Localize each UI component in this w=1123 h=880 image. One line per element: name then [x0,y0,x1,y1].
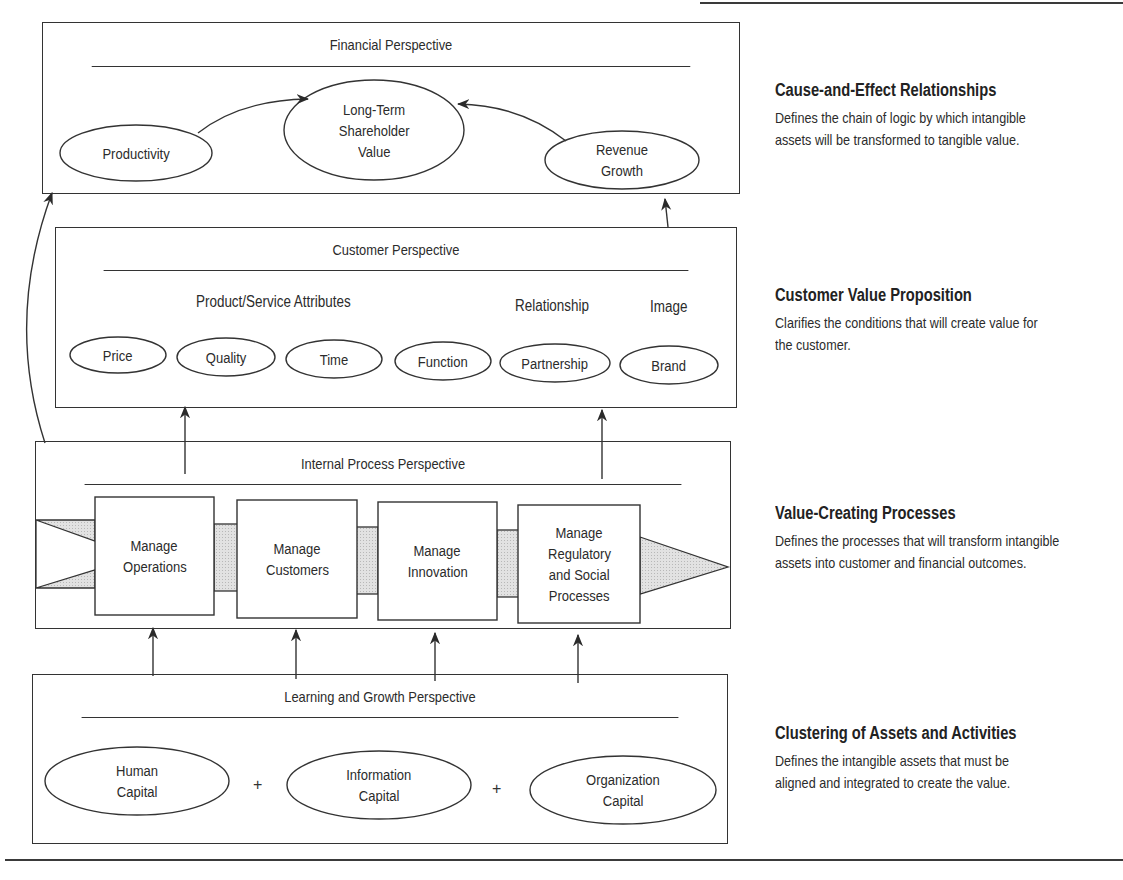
node-productivity: Productivity [60,125,212,181]
node-long-term-shareholder-value: Long-Term Shareholder Value [284,80,464,180]
plus-operator-2: + [492,780,501,798]
group-label-relationship: Relationship [515,297,589,315]
description-text: Defines the processes that will transfor… [775,530,1111,574]
description-text: Defines the intangible assets that must … [775,750,1111,794]
financial-perspective-title: Financial Perspective [92,23,691,67]
process-manage-operations: Manage Operations [95,497,214,615]
node-quality: Quality [177,338,275,376]
node-partnership: Partnership [500,344,610,382]
node-organization-capital: Organization Capital [530,756,716,824]
internal-process-perspective-title: Internal Process Perspective [85,442,682,485]
description-cause-effect: Cause-and-Effect Relationships Defines t… [775,80,1123,151]
node-time: Time [286,340,382,378]
plus-operator-1: + [253,776,262,794]
node-price: Price [70,337,166,373]
process-manage-regulatory-social: Manage Regulatory and Social Processes [518,505,640,623]
group-label-product-service-attributes: Product/Service Attributes [196,293,351,311]
description-title: Customer Value Proposition [775,285,1077,306]
learning-growth-perspective-title: Learning and Growth Perspective [82,675,679,718]
description-clustering-assets: Clustering of Assets and Activities Defi… [775,723,1123,794]
node-human-capital: Human Capital [45,747,229,815]
description-title: Cause-and-Effect Relationships [775,80,1077,101]
process-manage-innovation: Manage Innovation [378,502,497,620]
customer-perspective-title: Customer Perspective [104,228,689,271]
process-manage-customers: Manage Customers [237,500,357,618]
description-title: Value-Creating Processes [775,503,1077,524]
node-revenue-growth: Revenue Growth [545,131,699,189]
node-brand: Brand [620,346,718,384]
node-information-capital: Information Capital [287,751,471,819]
node-function: Function [395,342,491,380]
description-customer-value-proposition: Customer Value Proposition Clarifies the… [775,285,1123,356]
group-label-image: Image [650,298,687,316]
description-title: Clustering of Assets and Activities [775,723,1077,744]
description-text: Clarifies the conditions that will creat… [775,312,1111,356]
description-text: Defines the chain of logic by which inta… [775,107,1111,151]
arrow-internal-to-financial [27,193,52,443]
arrow-customer-to-revenue [665,199,668,227]
description-value-creating-processes: Value-Creating Processes Defines the pro… [775,503,1123,574]
